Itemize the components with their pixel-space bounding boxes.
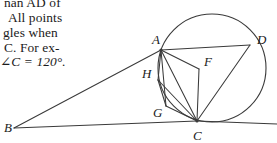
vertex-dot-c [195, 119, 198, 122]
geometry-figure: ABCDFGH [0, 0, 277, 143]
segment-BC [14, 121, 197, 128]
point-label-c: C [193, 128, 202, 143]
segment-FC [197, 69, 199, 121]
segment-BA [14, 50, 161, 128]
point-label-b: B [4, 120, 12, 135]
point-label-g: G [153, 105, 163, 120]
figure-page: nan AD of All points gles when C. For ex… [0, 0, 277, 143]
segment-AF [161, 50, 199, 69]
segment-group [14, 45, 250, 128]
point-label-d: D [256, 32, 267, 47]
vertex-dot-a [159, 48, 162, 51]
point-label-h: H [141, 66, 152, 81]
circle-outline [158, 14, 266, 122]
point-label-f: F [203, 54, 213, 69]
point-label-a: A [151, 32, 160, 47]
tangent-line-extension [197, 121, 277, 124]
segment-AD [161, 45, 250, 50]
